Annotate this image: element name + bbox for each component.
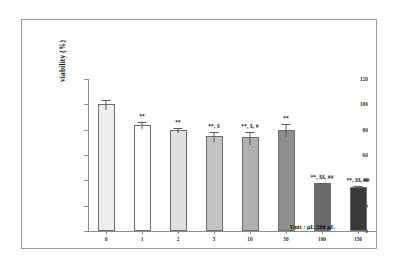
x-tick	[214, 231, 215, 234]
significance-label: **	[139, 113, 145, 119]
bar-group: **	[160, 79, 196, 231]
error-bar-cap	[138, 122, 147, 123]
error-bar	[142, 122, 143, 130]
bar-group: **, $	[196, 79, 232, 231]
significance-label: **, $$, ##	[310, 174, 333, 180]
x-tick	[358, 231, 359, 234]
bar-group: **	[268, 79, 304, 231]
bar	[206, 136, 223, 231]
x-tick	[178, 231, 179, 234]
error-bar-cap	[102, 100, 111, 101]
error-bar	[250, 132, 251, 145]
significance-label: **, $, #	[241, 123, 258, 129]
x-tick-label: 2	[158, 236, 198, 242]
significance-label: **	[175, 119, 181, 125]
y-tick	[84, 231, 88, 232]
bar-group: **, $, #	[232, 79, 268, 231]
x-tick-label: 50	[266, 236, 306, 242]
x-tick	[286, 231, 287, 234]
error-bar-cap	[318, 183, 327, 184]
error-bar	[106, 100, 107, 110]
x-tick-label: 10	[230, 236, 270, 242]
bar-group: **, $$, ##	[340, 79, 376, 231]
significance-label: **, $	[208, 123, 220, 129]
bar-group	[88, 79, 124, 231]
bar	[242, 137, 259, 231]
bar	[134, 125, 151, 231]
x-tick-label: 0	[86, 236, 126, 242]
x-axis-line	[88, 231, 376, 232]
unit-note: Unit : μL/200 μL	[290, 224, 335, 230]
error-bar	[286, 124, 287, 137]
significance-label: **, $$, ##	[346, 177, 369, 183]
significance-label: **	[283, 115, 289, 121]
bar-group: **, $$, ##	[304, 79, 340, 231]
x-tick-label: 150	[338, 236, 378, 242]
x-tick	[322, 231, 323, 234]
figure-frame: viability (%) 020406080100120 ******, $*…	[21, 19, 377, 249]
bar	[170, 130, 187, 231]
y-axis-title: viability (%)	[58, 0, 68, 82]
error-bar-cap	[354, 186, 363, 187]
x-tick	[142, 231, 143, 234]
plot-area: 020406080100120 ******, $**, $, #****, $…	[88, 79, 376, 231]
error-bar-cap	[282, 124, 291, 125]
bar	[98, 104, 115, 231]
x-tick-label: 100	[302, 236, 342, 242]
x-tick	[106, 231, 107, 234]
error-bar	[214, 132, 215, 142]
bar	[350, 187, 367, 231]
error-bar-cap	[210, 132, 219, 133]
bar-group: **	[124, 79, 160, 231]
bar	[278, 130, 295, 231]
x-tick-label: 1	[122, 236, 162, 242]
x-tick-label: 5	[194, 236, 234, 242]
error-bar-cap	[174, 128, 183, 129]
error-bar-cap	[246, 132, 255, 133]
x-tick	[250, 231, 251, 234]
